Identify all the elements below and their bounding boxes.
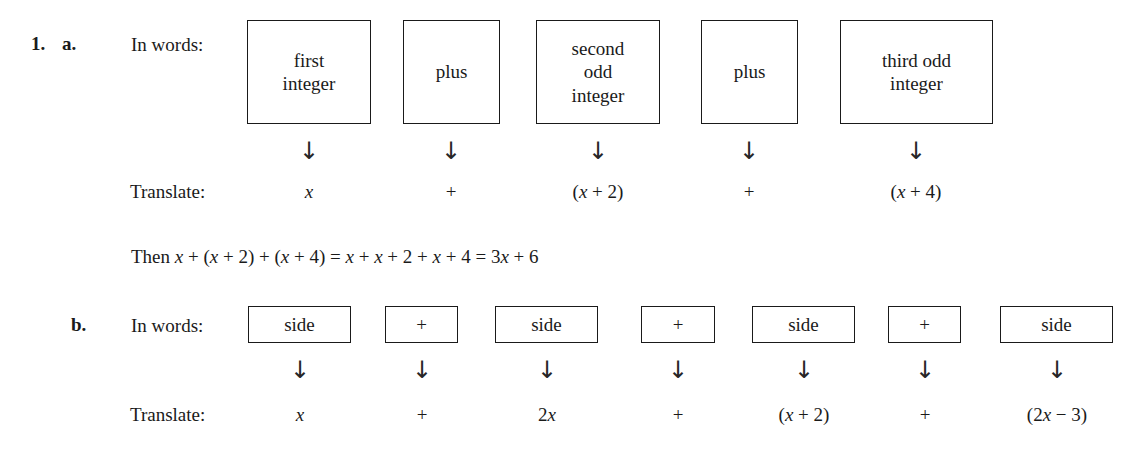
problem-number-text: 1. [31, 33, 45, 54]
word-box-a-4-line-1: plus [734, 61, 766, 82]
down-arrow-icon-a-5: ↓ [905, 139, 927, 163]
word-box-b-4: + [641, 306, 715, 343]
conclusion-equation-a: Then x + (x + 2) + (x + 4) = x + x + 2 +… [131, 247, 539, 266]
word-box-a-3-line-1: second [572, 38, 625, 59]
word-box-a-3-line-2: odd [584, 61, 613, 82]
down-arrow-icon-b-3: ↓ [536, 358, 558, 382]
word-box-a-2: plus [403, 20, 500, 124]
translate-label-b: Translate: [130, 405, 205, 424]
word-box-a-1-line-1: first [294, 50, 325, 71]
word-box-a-1-line-2: integer [283, 73, 336, 94]
worksheet-page: 1. a. In words: first integer plus secon… [0, 0, 1129, 457]
word-box-a-5-line-1: third odd [882, 50, 951, 71]
translate-value-b-7: (2x − 3) [992, 405, 1122, 424]
word-box-a-4: plus [701, 20, 798, 124]
word-box-b-2-line-1: + [416, 314, 427, 335]
word-box-b-6: + [888, 306, 961, 343]
down-arrow-icon-b-7: ↓ [1046, 358, 1068, 382]
word-box-b-3: side [495, 306, 598, 343]
translate-value-b-2: + [392, 405, 452, 424]
down-arrow-icon-b-6: ↓ [914, 358, 936, 382]
translate-value-a-2: + [421, 182, 481, 201]
translate-value-a-3: (x + 2) [538, 182, 658, 201]
problem-number: 1. [31, 34, 45, 53]
translate-value-b-3: 2x [517, 405, 577, 424]
translate-value-a-1: x [279, 182, 339, 201]
word-box-b-5: side [752, 306, 855, 343]
translate-value-b-5: (x + 2) [744, 405, 864, 424]
word-box-b-3-line-1: side [531, 314, 562, 335]
down-arrow-icon-b-2: ↓ [411, 358, 433, 382]
translate-value-b-4: + [648, 405, 708, 424]
down-arrow-icon-a-4: ↓ [738, 139, 760, 163]
word-box-b-1-line-1: side [284, 314, 315, 335]
translate-value-b-6: + [895, 405, 955, 424]
word-box-a-1: first integer [247, 20, 371, 124]
in-words-label-b: In words: [131, 316, 203, 335]
down-arrow-icon-a-2: ↓ [440, 139, 462, 163]
word-box-b-1: side [248, 306, 351, 343]
down-arrow-icon-b-5: ↓ [793, 358, 815, 382]
word-box-a-3-line-3: integer [572, 85, 625, 106]
down-arrow-icon-b-4: ↓ [667, 358, 689, 382]
down-arrow-icon-a-1: ↓ [298, 139, 320, 163]
word-box-a-2-line-1: plus [436, 61, 468, 82]
down-arrow-icon-a-3: ↓ [587, 139, 609, 163]
word-box-b-4-line-1: + [673, 314, 684, 335]
word-box-b-6-line-1: + [919, 314, 930, 335]
word-box-b-7-line-1: side [1041, 314, 1072, 335]
translate-label-a: Translate: [130, 182, 205, 201]
word-box-b-2: + [385, 306, 458, 343]
word-box-b-5-line-1: side [788, 314, 819, 335]
word-box-a-5-line-2: integer [890, 73, 943, 94]
word-box-b-7: side [1000, 306, 1113, 343]
word-box-a-5: third odd integer [840, 20, 993, 124]
down-arrow-icon-b-1: ↓ [289, 358, 311, 382]
translate-value-b-1: x [270, 405, 330, 424]
part-label-a: a. [62, 34, 76, 53]
part-label-b: b. [71, 315, 86, 334]
word-box-a-3: second odd integer [536, 20, 660, 124]
in-words-label-a: In words: [131, 35, 203, 54]
translate-value-a-4: + [719, 182, 779, 201]
translate-value-a-5: (x + 4) [856, 182, 976, 201]
